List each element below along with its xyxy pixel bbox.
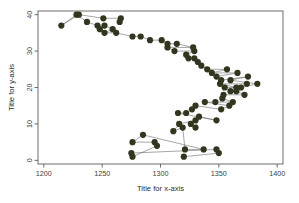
y-tick-label: 0 [25, 158, 34, 162]
y-tick-label: 10 [25, 120, 34, 128]
data-point [241, 92, 247, 98]
data-point [138, 33, 144, 39]
data-point [140, 132, 146, 138]
data-point [220, 92, 226, 98]
data-point [196, 114, 202, 120]
data-point [204, 66, 210, 72]
data-point [227, 77, 233, 83]
data-point [213, 146, 219, 152]
data-point [183, 110, 189, 116]
data-point [170, 128, 176, 134]
x-tick-label: 1250 [94, 169, 110, 178]
data-point [171, 48, 177, 54]
data-point [58, 22, 64, 28]
data-series [58, 12, 260, 160]
data-point [245, 73, 251, 79]
data-point [230, 99, 236, 105]
data-point [117, 19, 123, 25]
data-point [174, 41, 180, 47]
y-tick-label: 30 [25, 47, 34, 55]
data-point [254, 81, 260, 87]
y-axis-ticks: 010203040 [25, 11, 38, 163]
scatter-plot: 12001250130013501400 010203040 Title for… [0, 0, 299, 203]
y-tick-label: 20 [25, 84, 34, 92]
chart-figure: 12001250130013501400 010203040 Title for… [0, 0, 299, 203]
data-point [129, 154, 135, 160]
data-point [147, 37, 153, 43]
data-point [192, 124, 198, 130]
data-point [212, 99, 218, 105]
data-point [129, 33, 135, 39]
data-point [183, 52, 189, 58]
data-point [213, 117, 219, 123]
data-point [181, 154, 187, 160]
plot-box-border [38, 11, 283, 164]
x-tick-label: 1300 [153, 169, 169, 178]
series-connector-line [61, 15, 257, 157]
data-point [234, 70, 240, 76]
x-axis-title: Title for x-axis [137, 184, 184, 193]
data-point [201, 146, 207, 152]
data-point [152, 139, 158, 145]
data-point [244, 81, 250, 87]
data-point [238, 84, 244, 90]
data-point [110, 26, 116, 32]
x-axis-ticks: 12001250130013501400 [36, 164, 285, 178]
data-point [176, 121, 182, 127]
data-point [129, 139, 135, 145]
data-point [182, 146, 188, 152]
y-axis-title: Title for y-axis [7, 64, 16, 111]
plot-frame [38, 11, 283, 164]
data-point [164, 41, 170, 47]
data-point [224, 66, 230, 72]
data-point [76, 12, 82, 18]
data-point [84, 19, 90, 25]
data-point [192, 103, 198, 109]
data-point [202, 99, 208, 105]
data-point [175, 110, 181, 116]
x-tick-label: 1400 [269, 169, 285, 178]
data-point [100, 15, 106, 21]
x-tick-label: 1200 [36, 169, 52, 178]
data-point [227, 88, 233, 94]
data-series-layer [58, 12, 260, 160]
data-point [159, 37, 165, 43]
data-point [190, 44, 196, 50]
data-point [218, 106, 224, 112]
data-point [191, 55, 197, 61]
data-point [94, 22, 100, 28]
y-tick-label: 40 [25, 11, 34, 19]
x-tick-label: 1350 [211, 169, 227, 178]
